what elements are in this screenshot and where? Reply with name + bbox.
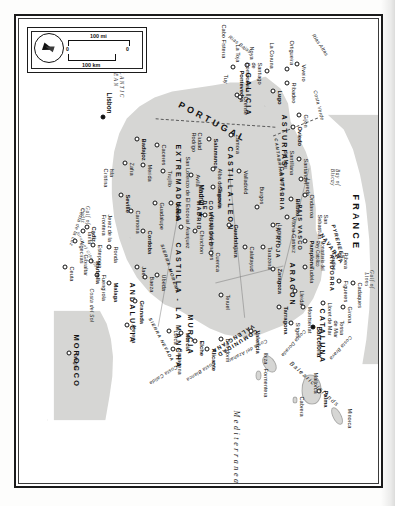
city-label-carmona: Carmona: [133, 210, 139, 233]
city-label-lorca: Lorca: [171, 330, 177, 344]
page-gutter-shadow: [381, 0, 395, 506]
city-label-isla-cristina: Isla Cristina: [101, 168, 113, 190]
country-label-france: FRANCE: [350, 194, 359, 251]
scale-zero-miles-end: 0: [126, 46, 129, 52]
city-label-lleida: Lleida: [297, 290, 303, 305]
city-dot: [118, 192, 123, 197]
city-label-caceres: Caceres: [159, 144, 165, 165]
city-label-barcelona: Barcelona: [315, 326, 321, 357]
city-dot: [202, 212, 207, 217]
city-label-ondarroa: Ondarroa: [307, 194, 313, 218]
city-dot: [296, 112, 301, 117]
city-label-merida: Merida: [145, 164, 151, 181]
city-dot: [237, 94, 242, 99]
city-dot: [140, 228, 145, 233]
island-cabrera: [292, 396, 297, 403]
city-dot: [248, 328, 253, 333]
city-dot: [302, 264, 307, 269]
city-label-salamanca: Salamanca: [211, 138, 217, 168]
map-frame-inner: FRANCE PORTUGAL MOROCCO ANDORRA GALICIA …: [18, 18, 379, 484]
city-dot: [154, 142, 159, 147]
city-label-valladolid: Valladolid: [241, 170, 247, 194]
city-dot: [218, 292, 223, 297]
city-dot: [204, 346, 209, 351]
scale-label-km: 100 km: [82, 62, 100, 68]
city-dot: [302, 238, 307, 243]
city-label-aranjuez: Aranjuez: [183, 226, 189, 248]
city-label-burgos: Burgos: [257, 186, 263, 204]
city-label-elche: Elche: [197, 340, 203, 355]
city-label-la-coruna: La Coruna: [267, 42, 273, 68]
city-label-santiago-de-compostela: Santiago de Compostela: [243, 62, 261, 90]
city-label-ronda: Ronda: [111, 246, 117, 262]
city-dot: [228, 132, 233, 137]
city-dot: [178, 224, 183, 229]
city-dot: [336, 278, 341, 283]
scale-tick-km-start: [68, 54, 69, 60]
city-dot: [284, 214, 289, 219]
city-dot: [230, 64, 235, 69]
city-label-bilbao: Bilbao: [293, 198, 299, 216]
city-label-guadalajara: Guadalajara: [231, 224, 237, 257]
city-dot: [296, 156, 301, 161]
city-label-pamplona: Pamplona: [307, 240, 313, 268]
city-label-cordoba: Cordoba: [145, 230, 151, 254]
city-label-viveiro: Viveiro: [299, 64, 305, 81]
city-label-girona: Girona: [345, 306, 351, 323]
city-dot: [270, 222, 275, 227]
city-dot: [242, 244, 247, 249]
city-dot: [340, 304, 345, 309]
scale-bar-miles: [68, 40, 130, 41]
city-label-tuy: Tuy: [221, 74, 227, 83]
city-dot: [142, 274, 147, 279]
city-dot: [168, 200, 173, 205]
city-dot: [166, 328, 171, 333]
city-label-cuenca: Cuenca: [213, 252, 219, 271]
island-formentera: [255, 370, 261, 380]
city-dot: [284, 66, 289, 71]
city-label-montserrat: Montserrat: [305, 306, 311, 333]
city-label-ceuta: Ceuta: [67, 266, 73, 281]
city-label-teruel: Teruel: [223, 294, 229, 309]
city-label-lugo: Lugo: [275, 90, 281, 104]
city-label-tangier: Tangier: [71, 352, 77, 370]
city-label-vitoria-gasteiz: Vitoria-Gasteiz: [289, 216, 295, 253]
scale-zero-miles: 0: [66, 46, 69, 52]
city-label-guadalupe: Guadalupe: [157, 202, 163, 229]
scale-label-miles: 100 mi: [90, 33, 107, 39]
city-dot: [270, 88, 275, 93]
compass-rose-icon: [34, 33, 64, 63]
city-label-lloret-de-mar: Lloret de Mar: [325, 302, 331, 335]
city-dot: [206, 136, 211, 141]
city-label-figueres: Figueres: [341, 280, 347, 302]
city-dot: [302, 192, 307, 197]
city-label-tarragona: Tarragona: [281, 306, 287, 334]
city-dot: [192, 228, 197, 233]
island-label-ibiza: Ibiza: [261, 352, 267, 364]
map-canvas: FRANCE PORTUGAL MOROCCO ANDORRA GALICIA …: [18, 18, 379, 484]
city-dot: [226, 222, 231, 227]
city-dot: [276, 304, 281, 309]
city-label-oviedo: Oviedo: [295, 126, 301, 146]
city-dot: [290, 124, 295, 129]
capital-label-lisbon: Lisbon: [105, 92, 111, 113]
capital-marker-lisbon: [100, 114, 105, 119]
region-label-aragon: ARAGON: [288, 262, 295, 306]
city-label-chinchon: Chinchon: [197, 230, 203, 254]
coast-label-costa-del-sol: Costa del Sol: [88, 288, 93, 322]
city-dot: [122, 160, 127, 165]
capital-label-madrid: Madrid: [197, 184, 203, 205]
city-label-zamora: Zamora: [233, 134, 239, 153]
city-label-granada: Granada: [137, 300, 143, 324]
city-label-baeza: Baeza: [147, 276, 153, 292]
water-label-bay-of-biscay: Bay of Biscay: [328, 166, 339, 188]
map-page: FRANCE PORTUGAL MOROCCO ANDORRA GALICIA …: [0, 0, 395, 506]
city-dot: [106, 244, 111, 249]
city-dot: [66, 350, 71, 355]
city-dot: [292, 288, 297, 293]
city-dot: [124, 322, 129, 327]
water-label-gulf-of-lions: Gulf of Lions: [362, 268, 373, 290]
scale-tick-miles-end: [129, 40, 130, 46]
city-label-ciudad-rodrigo: Ciudad Rodrigo: [189, 132, 201, 160]
map-legend-inset: 100 mi 0 0 100 km: [27, 27, 147, 73]
